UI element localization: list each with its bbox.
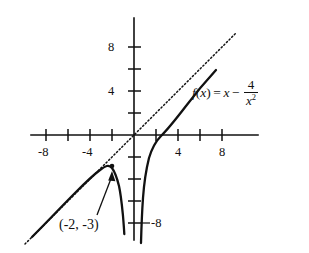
- x-tick-label-4: 4: [175, 146, 181, 159]
- function-graph-figure: -8 -4 4 8 8 4 -8 (-2, -3) f(x) = x − 4 x…: [0, 0, 309, 253]
- x-tick-label-neg8: -8: [38, 146, 48, 159]
- local-max-dot: [110, 164, 115, 169]
- function-equation-label: f(x) = x − 4 x2: [192, 78, 258, 107]
- x-tick-label-neg4: -4: [82, 146, 92, 159]
- local-max-point-label: (-2, -3): [59, 218, 99, 232]
- y-tick-label-4: 4: [108, 85, 114, 98]
- y-tick-label-8: 8: [108, 41, 114, 54]
- fraction-numerator: 4: [246, 78, 257, 92]
- function-first-term: x: [223, 86, 229, 100]
- function-fraction: 4 x2: [244, 78, 258, 107]
- y-tick-label-neg8: -8: [151, 217, 161, 230]
- annotation-arrow-shaft: [97, 176, 112, 215]
- function-close-paren: ): [206, 86, 211, 100]
- x-tick-label-8: 8: [219, 146, 225, 159]
- function-minus-sign: −: [232, 86, 240, 100]
- denominator-exponent: 2: [252, 92, 256, 102]
- function-equals-sign: =: [213, 86, 221, 100]
- fraction-denominator: x2: [244, 93, 258, 107]
